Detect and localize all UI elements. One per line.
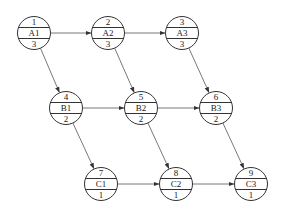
node-top-number: 4 bbox=[64, 92, 69, 102]
node-c2: 8C21 bbox=[160, 168, 193, 201]
node-top-number: 9 bbox=[249, 168, 254, 178]
node-label: C1 bbox=[96, 179, 107, 189]
node-b1: 4B12 bbox=[50, 92, 83, 125]
node-bottom-number: 3 bbox=[106, 39, 111, 49]
node-bottom-number: 3 bbox=[32, 39, 37, 49]
node-bottom-number: 1 bbox=[99, 190, 104, 200]
node-b2: 5B22 bbox=[125, 92, 158, 125]
node-bottom-number: 2 bbox=[64, 114, 69, 124]
node-a3: 3A33 bbox=[166, 17, 199, 50]
node-bottom-number: 3 bbox=[180, 39, 185, 49]
node-a1: 1A13 bbox=[18, 17, 51, 50]
node-bottom-number: 2 bbox=[139, 114, 144, 124]
edge-b2-c2 bbox=[148, 123, 169, 169]
node-label: A2 bbox=[103, 28, 114, 38]
node-bottom-number: 1 bbox=[174, 190, 179, 200]
node-label: C3 bbox=[246, 179, 257, 189]
node-top-number: 1 bbox=[32, 17, 37, 27]
network-diagram: 1A132A233A334B125B226B327C118C219C31 bbox=[0, 0, 287, 217]
node-a2: 2A23 bbox=[92, 17, 125, 50]
edge-b1-c1 bbox=[73, 123, 94, 169]
nodes: 1A132A233A334B125B226B327C118C219C31 bbox=[18, 17, 268, 201]
node-label: A3 bbox=[177, 28, 188, 38]
node-top-number: 2 bbox=[106, 17, 111, 27]
node-top-number: 3 bbox=[180, 17, 185, 27]
node-label: A1 bbox=[29, 28, 40, 38]
node-c1: 7C11 bbox=[85, 168, 118, 201]
node-bottom-number: 1 bbox=[249, 190, 254, 200]
edge-a1-b1 bbox=[40, 48, 59, 92]
edge-a3-b3 bbox=[189, 48, 209, 92]
edge-a2-b2 bbox=[115, 48, 135, 92]
node-top-number: 5 bbox=[139, 92, 144, 102]
node-bottom-number: 2 bbox=[214, 114, 219, 124]
node-label: B1 bbox=[61, 103, 72, 113]
node-top-number: 6 bbox=[214, 92, 219, 102]
node-label: C2 bbox=[171, 179, 182, 189]
node-b3: 6B32 bbox=[200, 92, 233, 125]
node-label: B2 bbox=[136, 103, 147, 113]
edge-b3-c3 bbox=[223, 123, 244, 169]
node-label: B3 bbox=[211, 103, 222, 113]
node-c3: 9C31 bbox=[235, 168, 268, 201]
node-top-number: 8 bbox=[174, 168, 179, 178]
node-top-number: 7 bbox=[99, 168, 104, 178]
